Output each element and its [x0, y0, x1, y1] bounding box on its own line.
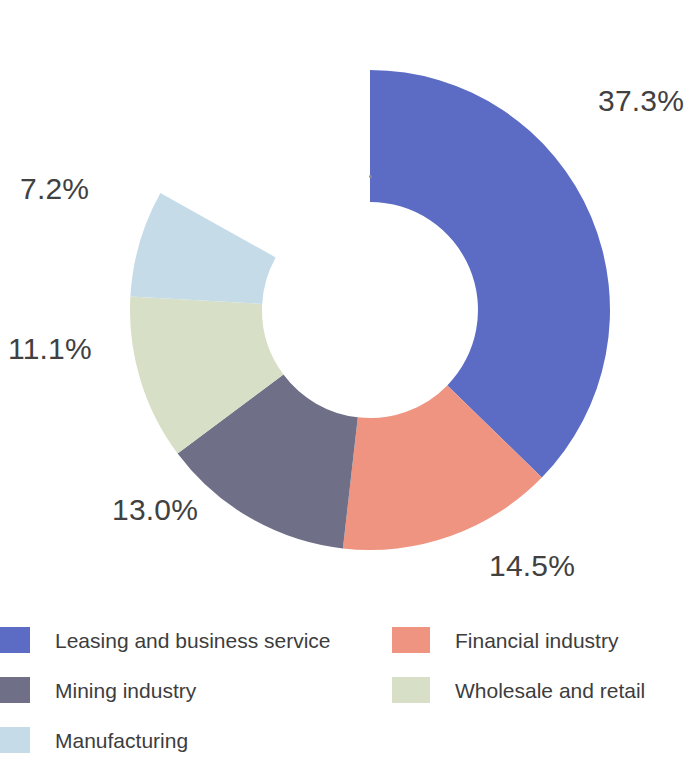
slice-percent-label-wholesale: 11.1%: [8, 334, 92, 364]
legend-item-label: Financial industry: [455, 630, 618, 651]
legend-item-leasing-and-business-service[interactable]: Leasing and business service: [0, 625, 331, 655]
legend-item-financial-industry[interactable]: Financial industry: [392, 625, 618, 655]
donut-slice[interactable]: [130, 193, 275, 304]
slice-percent-label-mining: 13.0%: [112, 495, 198, 525]
legend-item-label: Leasing and business service: [55, 630, 331, 651]
slice-percent-label-manufacturing: 7.2%: [20, 174, 89, 204]
donut-chart-figure: 37.3% 14.5% 13.0% 11.1% 7.2% Leasing and…: [0, 0, 685, 757]
legend-color-swatch-icon: [392, 627, 430, 653]
donut-chart-svg: [0, 0, 685, 610]
donut-slice-group: [130, 70, 610, 550]
legend-color-swatch-icon: [0, 627, 30, 653]
legend-color-swatch-icon: [0, 727, 30, 753]
chart-legend: Leasing and business service Mining indu…: [0, 622, 685, 757]
legend-color-swatch-icon: [0, 677, 30, 703]
slice-percent-label-financial: 14.5%: [489, 551, 575, 581]
legend-item-mining-industry[interactable]: Mining industry: [0, 675, 196, 705]
center-marker-dot: [369, 175, 372, 178]
legend-item-label: Mining industry: [55, 680, 196, 701]
legend-item-wholesale-and-retail[interactable]: Wholesale and retail: [392, 675, 645, 705]
legend-item-label: Wholesale and retail: [455, 680, 645, 701]
legend-item-label: Manufacturing: [55, 730, 188, 751]
slice-percent-label-leasing: 37.3%: [598, 86, 684, 116]
legend-color-swatch-icon: [392, 677, 430, 703]
donut-chart-plot: 37.3% 14.5% 13.0% 11.1% 7.2%: [0, 0, 685, 610]
legend-item-manufacturing[interactable]: Manufacturing: [0, 725, 188, 755]
